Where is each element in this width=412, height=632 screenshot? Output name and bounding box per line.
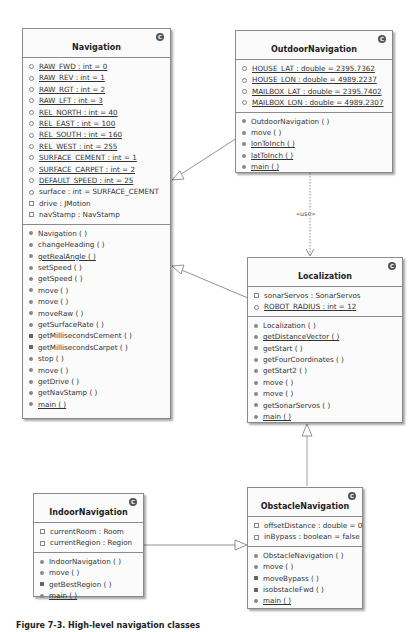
attribute-row: HOUSE_LAT : double = 2395.7362 — [242, 63, 392, 74]
public-visibility-icon — [29, 254, 33, 258]
public-visibility-icon — [254, 392, 258, 396]
public-visibility-icon — [242, 154, 246, 158]
package-visibility-icon — [29, 155, 34, 160]
protected-visibility-icon — [254, 588, 258, 592]
class-name: ObstacleNavigation — [248, 501, 362, 512]
attribute-row: offsetDistance : double = 0 — [254, 520, 362, 531]
package-visibility-icon — [29, 190, 34, 195]
attribute-signature: drive : JMotion — [39, 198, 91, 209]
method-signature: stop ( ) — [38, 353, 64, 364]
class-header: C Navigation — [23, 29, 170, 58]
method-signature: main ( ) — [49, 590, 77, 601]
package-visibility-icon — [29, 64, 34, 69]
package-visibility-icon — [29, 110, 34, 115]
public-visibility-icon — [254, 346, 258, 350]
public-visibility-icon — [242, 142, 246, 146]
method-row: move ( ) — [40, 567, 143, 578]
class-box-localization[interactable]: C Localization sonarServos : SonarServos… — [247, 257, 403, 423]
attribute-row: currentRegion : Region — [40, 537, 143, 548]
attribute-row: RAW_FWD : int = 0 — [29, 61, 170, 72]
attribute-row: DEFAULT_SPEED : int = 25 — [29, 175, 170, 186]
private-visibility-icon — [29, 212, 34, 217]
methods-section: ObstacleNavigation ( )move ( )moveBypass… — [248, 546, 362, 610]
public-visibility-icon — [254, 599, 258, 603]
private-visibility-icon — [40, 529, 45, 534]
method-signature: IndoorNavigation ( ) — [49, 556, 121, 567]
method-signature: move ( ) — [263, 388, 293, 399]
package-visibility-icon — [29, 133, 34, 138]
public-visibility-icon — [254, 565, 258, 569]
attribute-row: navStamp : NavStamp — [29, 209, 170, 220]
method-row: changeHeading ( ) — [29, 239, 170, 250]
method-row: getDrive ( ) — [29, 376, 170, 387]
attribute-signature: SURFACE_CARPET : int = 2 — [39, 164, 135, 175]
method-row: move ( ) — [242, 127, 392, 138]
private-visibility-icon — [29, 201, 34, 206]
class-c-icon: C — [388, 262, 396, 270]
methods-section: IndoorNavigation ( )move ( )getBestRegio… — [34, 552, 143, 605]
public-visibility-icon — [29, 266, 33, 270]
attribute-signature: currentRoom : Room — [50, 526, 124, 537]
method-row: main ( ) — [254, 595, 362, 606]
private-visibility-icon — [40, 541, 45, 546]
attribute-signature: RAW_RGT : int = 2 — [39, 84, 105, 95]
private-visibility-icon — [254, 523, 259, 528]
method-row: stop ( ) — [29, 353, 170, 364]
method-row: move ( ) — [254, 388, 402, 399]
class-box-outdoor-navigation[interactable]: C OutdoorNavigation HOUSE_LAT : double =… — [235, 30, 393, 173]
method-signature: moveRaw ( ) — [38, 308, 83, 319]
attribute-row: sonarServos : SonarServos — [254, 290, 402, 301]
public-visibility-icon — [254, 324, 258, 328]
attribute-signature: RAW_FWD : int = 0 — [39, 61, 107, 72]
class-box-indoor-navigation[interactable]: C IndoorNavigation currentRoom : Roomcur… — [33, 493, 144, 597]
attribute-signature: REL_SOUTH : int = 160 — [39, 129, 122, 140]
public-visibility-icon — [254, 415, 258, 419]
method-row: move ( ) — [29, 365, 170, 376]
method-row: getSonarServos ( ) — [254, 400, 402, 411]
attribute-signature: MAILBOX_LON : double = 4989.2307 — [252, 97, 384, 108]
package-visibility-icon — [242, 66, 247, 71]
public-visibility-icon — [242, 165, 246, 169]
public-visibility-icon — [40, 560, 44, 564]
attribute-row: inBypass : boolean = false — [254, 531, 362, 542]
attribute-signature: REL_EAST : int = 100 — [39, 118, 115, 129]
attribute-signature: REL_NORTH : int = 40 — [39, 107, 118, 118]
attribute-row: REL_NORTH : int = 40 — [29, 107, 170, 118]
method-signature: latToInch ( ) — [251, 150, 293, 161]
attributes-section: RAW_FWD : int = 0RAW_REV : int = 1RAW_RG… — [23, 58, 170, 224]
method-signature: lonToInch ( ) — [251, 138, 295, 149]
protected-visibility-icon — [40, 582, 44, 586]
public-visibility-icon — [242, 119, 246, 123]
generalization-arrowhead-icon — [235, 540, 247, 550]
class-box-obstacle-navigation[interactable]: C ObstacleNavigation offsetDistance : do… — [247, 487, 363, 609]
method-row: moveRaw ( ) — [29, 308, 170, 319]
public-visibility-icon — [29, 243, 33, 247]
attribute-row: RAW_LFT : int = 3 — [29, 95, 170, 106]
class-box-navigation[interactable]: C Navigation RAW_FWD : int = 0RAW_REV : … — [22, 28, 171, 419]
method-row: getMillisecondsCarpet ( ) — [29, 342, 170, 353]
public-visibility-icon — [29, 300, 33, 304]
method-signature: main ( ) — [263, 595, 291, 606]
method-row: getBestRegion ( ) — [40, 579, 143, 590]
attributes-section: offsetDistance : double = 0inBypass : bo… — [248, 517, 362, 546]
figure-caption: Figure 7-3. High-level navigation classe… — [16, 621, 200, 630]
class-header: C Localization — [248, 258, 402, 287]
public-visibility-icon — [254, 369, 258, 373]
method-row: move ( ) — [254, 377, 402, 388]
method-signature: changeHeading ( ) — [38, 239, 105, 250]
use-stereotype-label: «use» — [296, 210, 315, 218]
attribute-row: currentRoom : Room — [40, 526, 143, 537]
method-row: ObstacleNavigation ( ) — [254, 550, 362, 561]
attributes-section: HOUSE_LAT : double = 2395.7362HOUSE_LON … — [236, 60, 392, 112]
method-signature: move ( ) — [263, 561, 293, 572]
method-signature: move ( ) — [49, 567, 79, 578]
package-visibility-icon — [29, 167, 34, 172]
package-visibility-icon — [242, 100, 247, 105]
method-row: getRealAngle ( ) — [29, 251, 170, 262]
class-header: C IndoorNavigation — [34, 494, 143, 523]
attribute-row: REL_SOUTH : int = 160 — [29, 129, 170, 140]
private-visibility-icon — [254, 293, 259, 298]
class-header: C OutdoorNavigation — [236, 31, 392, 60]
class-name: OutdoorNavigation — [236, 44, 392, 55]
method-signature: getSpeed ( ) — [38, 273, 83, 284]
